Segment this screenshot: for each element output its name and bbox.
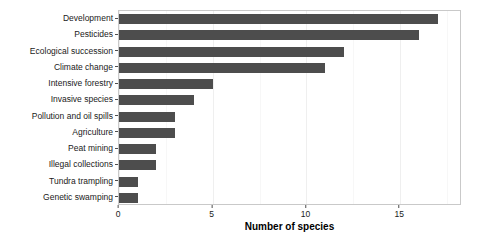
bar[interactable] [119, 47, 344, 57]
x-axis-tick: 15 [394, 205, 403, 220]
y-axis-tick-mark [115, 164, 118, 165]
y-axis-tick-mark [115, 83, 118, 84]
plot-panel [118, 10, 461, 205]
x-axis-tick-mark [117, 205, 118, 208]
bar-series [119, 11, 460, 204]
y-axis-tick: Pesticides [74, 28, 118, 40]
bar-row [119, 125, 460, 141]
bar-row [119, 157, 460, 173]
y-axis-tick-mark [115, 34, 118, 35]
x-axis-tick-mark [305, 205, 306, 208]
y-axis-tick: Invasive species [51, 93, 118, 105]
bar-row [119, 190, 460, 205]
bar[interactable] [119, 160, 156, 170]
y-axis-tick-label: Development [63, 12, 113, 24]
y-axis-tick: Pollution and oil spills [32, 110, 118, 122]
y-axis-tick: Illegal collections [49, 158, 118, 170]
y-axis-tick: Intensive forestry [48, 77, 118, 89]
y-axis-tick-mark [115, 50, 118, 51]
bar[interactable] [119, 63, 325, 73]
y-axis-tick-label: Intensive forestry [48, 77, 113, 89]
bar[interactable] [119, 112, 175, 122]
x-axis-title: Number of species [118, 221, 461, 232]
bar-row [119, 11, 460, 27]
y-axis-tick-mark [115, 115, 118, 116]
bar-row [119, 92, 460, 108]
y-axis-tick-label: Peat mining [68, 142, 113, 154]
y-axis-tick-label: Ecological succession [30, 45, 113, 57]
y-axis-tick-label: Climate change [54, 61, 113, 73]
x-axis-tick-label: 10 [301, 209, 310, 220]
y-axis-tick: Development [63, 12, 118, 24]
y-axis-tick-label: Agriculture [72, 126, 113, 138]
bar[interactable] [119, 30, 419, 40]
bar-row [119, 76, 460, 92]
x-axis-tick: 5 [209, 205, 214, 220]
y-axis-tick: Ecological succession [30, 45, 118, 57]
bar-row [119, 27, 460, 43]
y-axis-tick-mark [115, 18, 118, 19]
y-axis-tick-label: Pollution and oil spills [32, 110, 113, 122]
x-axis-tick: 0 [116, 205, 121, 220]
x-axis-tick-mark [399, 205, 400, 208]
bar-row [119, 60, 460, 76]
y-axis-tick-label: Genetic swamping [43, 191, 113, 203]
y-axis-tick-label: Invasive species [51, 93, 113, 105]
y-axis-tick-mark [115, 196, 118, 197]
bar[interactable] [119, 79, 213, 89]
y-axis-tick-mark [115, 148, 118, 149]
y-axis-tick: Climate change [54, 61, 118, 73]
y-axis-tick-mark [115, 99, 118, 100]
y-axis: DevelopmentPesticidesEcological successi… [0, 10, 118, 205]
bar[interactable] [119, 193, 138, 203]
x-axis-tick-mark [211, 205, 212, 208]
bar[interactable] [119, 144, 156, 154]
x-axis-tick-label: 5 [209, 209, 214, 220]
y-axis-tick: Genetic swamping [43, 191, 118, 203]
y-axis-tick-label: Illegal collections [49, 158, 113, 170]
y-axis-tick: Agriculture [72, 126, 118, 138]
bar-row [119, 141, 460, 157]
y-axis-tick-mark [115, 131, 118, 132]
y-axis-tick: Peat mining [68, 142, 118, 154]
bar[interactable] [119, 177, 138, 187]
bar[interactable] [119, 14, 438, 24]
y-axis-tick-label: Pesticides [74, 28, 113, 40]
bar[interactable] [119, 128, 175, 138]
x-axis-tick: 10 [301, 205, 310, 220]
y-axis-tick-label: Tundra trampling [49, 175, 113, 187]
x-axis-tick-label: 0 [116, 209, 121, 220]
y-axis-tick-mark [115, 180, 118, 181]
bar-row [119, 174, 460, 190]
bar-row [119, 109, 460, 125]
y-axis-tick: Tundra trampling [49, 175, 118, 187]
bar[interactable] [119, 95, 194, 105]
y-axis-tick-mark [115, 66, 118, 67]
bar-chart: DevelopmentPesticidesEcological successi… [0, 0, 480, 242]
x-axis-tick-label: 15 [394, 209, 403, 220]
bar-row [119, 44, 460, 60]
